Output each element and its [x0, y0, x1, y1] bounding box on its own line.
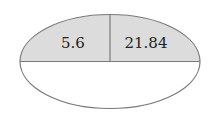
divided-ellipse-diagram: 5.6 21.84	[0, 0, 213, 115]
cell-top-left-value: 5.6	[61, 34, 85, 52]
cell-top-right-value: 21.84	[125, 34, 168, 52]
